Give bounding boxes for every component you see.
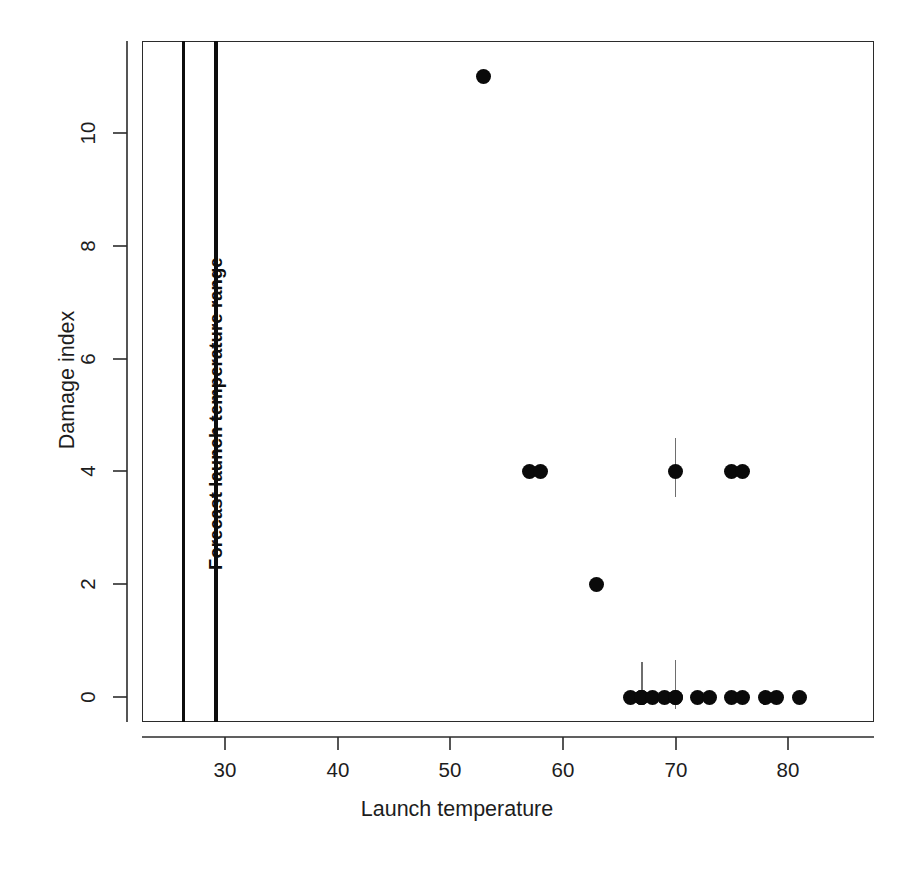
data-point: [589, 577, 604, 592]
data-point: [735, 464, 750, 479]
scatter-plot-figure: 30 40 50 60 70 80 0 2 4 6 8 10 Launch te…: [0, 0, 914, 869]
data-point: [668, 690, 683, 705]
data-point: [476, 69, 491, 84]
data-point: [769, 690, 784, 705]
data-points-layer: [0, 0, 914, 869]
data-point: [792, 690, 807, 705]
data-point: [668, 464, 683, 479]
data-point: [702, 690, 717, 705]
data-point: [533, 464, 548, 479]
data-point: [735, 690, 750, 705]
